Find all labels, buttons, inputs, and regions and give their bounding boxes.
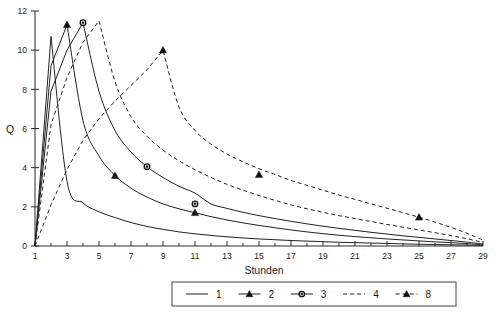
x-tick-label: 11: [191, 251, 200, 261]
marker-circle-dot-3: [82, 22, 84, 24]
marker-circle-dot-3: [146, 166, 148, 168]
marker-triangle-8: [415, 214, 422, 220]
x-tick-label: 15: [254, 251, 264, 261]
y-tick-label: 4: [22, 163, 27, 173]
axis-titles: StundenQ: [6, 123, 284, 277]
legend-label-3: 3: [321, 289, 327, 300]
y-tick-label: 10: [18, 45, 28, 55]
series-line-4: [35, 21, 483, 246]
x-tick-label: 9: [161, 251, 166, 261]
hydrograph-chart: 1357911131517192123252729 024681012 Stun…: [0, 0, 501, 316]
marker-triangle-8: [255, 171, 262, 177]
x-tick-label: 1: [33, 251, 38, 261]
chart-canvas: 1357911131517192123252729 024681012 Stun…: [0, 0, 501, 316]
legend-label-8: 8: [426, 289, 432, 300]
y-tick-label: 0: [22, 241, 27, 251]
data-markers: [63, 20, 422, 220]
x-tick-label: 19: [318, 251, 328, 261]
x-tick-label: 27: [446, 251, 456, 261]
y-tick-label: 2: [22, 202, 27, 212]
marker-triangle-8: [159, 47, 166, 53]
x-tick-label: 13: [222, 251, 232, 261]
x-tick-label: 21: [350, 251, 360, 261]
y-axis-ticks: 024681012: [18, 6, 39, 251]
y-tick-label: 12: [18, 6, 28, 16]
data-series-group: [35, 21, 483, 246]
x-tick-label: 17: [286, 251, 296, 261]
y-tick-label: 8: [22, 85, 27, 95]
series-line-3: [35, 23, 483, 246]
x-tick-label: 23: [382, 251, 392, 261]
x-tick-label: 7: [129, 251, 134, 261]
series-line-8: [35, 50, 483, 246]
legend-label-1: 1: [216, 289, 222, 300]
y-axis-title: Q: [6, 123, 14, 135]
x-tick-label: 25: [414, 251, 424, 261]
series-line-1: [35, 36, 483, 246]
legend-label-4: 4: [373, 289, 379, 300]
marker-triangle-2: [63, 21, 70, 27]
marker-circle-dot-3: [194, 203, 196, 205]
chart-axes: [35, 11, 483, 246]
legend-label-2: 2: [268, 289, 274, 300]
x-tick-label: 3: [65, 251, 70, 261]
y-tick-label: 6: [22, 124, 27, 134]
x-axis-title: Stunden: [244, 264, 283, 276]
chart-legend: 12348: [172, 282, 456, 306]
x-tick-label: 29: [478, 251, 488, 261]
legend-marker-circle-dot-3: [301, 293, 303, 295]
x-tick-label: 5: [97, 251, 102, 261]
